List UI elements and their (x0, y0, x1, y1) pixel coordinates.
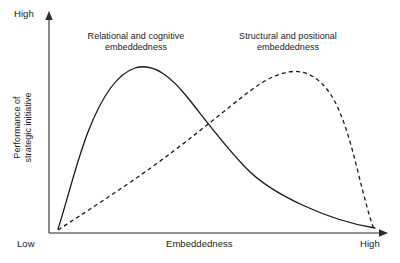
y-axis-high-label: High (14, 8, 34, 19)
x-axis-arrow-icon (379, 229, 388, 236)
series-label-relational-cognitive-line2: embeddedness (66, 42, 206, 53)
y-axis-arrow-icon (45, 11, 52, 20)
x-axis-title: Embeddedness (166, 238, 233, 249)
series-curve-relational-cognitive (58, 67, 375, 229)
x-axis-high-label: High (360, 238, 380, 249)
y-axis-title: Performance of strategic initiative (12, 73, 33, 183)
series-label-relational-cognitive-line1: Relational and cognitive (66, 31, 206, 42)
series-label-structural-positional-line2: embeddedness (224, 42, 352, 53)
chart-figure: High Low Embeddedness High Performance o… (0, 0, 400, 263)
y-axis-title-line1: Performance of (12, 73, 23, 183)
series-label-relational-cognitive: Relational and cognitive embeddedness (66, 31, 206, 53)
series-label-structural-positional-line1: Structural and positional (224, 31, 352, 42)
series-label-structural-positional: Structural and positional embeddedness (224, 31, 352, 53)
y-axis-title-line2: strategic initiative (22, 73, 33, 183)
y-axis-low-label: Low (17, 238, 35, 249)
